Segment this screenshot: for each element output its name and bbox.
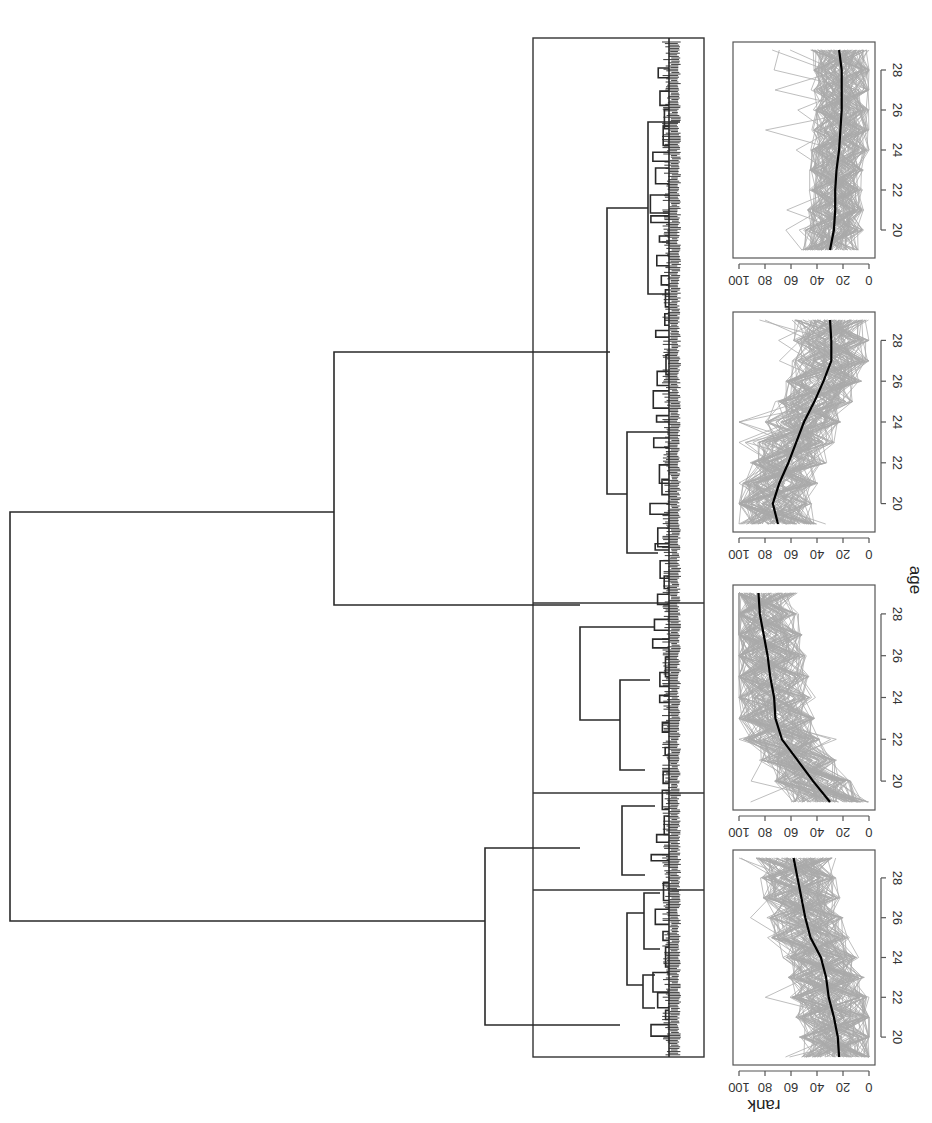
age-tick-label: 22 <box>890 990 905 1004</box>
rank-tick-label: 60 <box>784 273 798 288</box>
panel-cluster-3: 0204060801002022242628 <box>728 312 905 562</box>
dendrogram-branch <box>622 806 655 875</box>
age-tick-label: 24 <box>890 143 905 157</box>
panel-cluster-4: 0204060801002022242628 <box>728 42 905 288</box>
dendrogram-branch <box>334 352 610 605</box>
rank-tick-label: 20 <box>836 825 850 840</box>
rank-tick-label: 40 <box>810 547 824 562</box>
x-axis-title-age: age <box>906 566 925 594</box>
dendrogram-branch <box>627 913 644 985</box>
age-tick-label: 22 <box>890 183 905 197</box>
rank-tick-label: 100 <box>728 1080 750 1095</box>
y-axis-title-rank: rank <box>747 1096 781 1115</box>
rank-tick-label: 40 <box>810 825 824 840</box>
dendrogram-branch <box>620 680 650 770</box>
age-tick-label: 28 <box>890 63 905 77</box>
panel-cluster-1: 0204060801002022242628 <box>728 850 905 1095</box>
rank-tick-label: 100 <box>728 273 750 288</box>
age-tick-label: 22 <box>890 732 905 746</box>
age-tick-label: 20 <box>890 774 905 788</box>
rank-tick-label: 40 <box>810 1080 824 1095</box>
age-tick-label: 26 <box>890 374 905 388</box>
rank-tick-label: 80 <box>758 547 772 562</box>
rank-tick-label: 80 <box>758 1080 772 1095</box>
figure-canvas: 0204060801002022242628020406080100202224… <box>0 0 932 1123</box>
rank-tick-label: 0 <box>865 1080 872 1095</box>
age-tick-label: 28 <box>890 333 905 347</box>
age-tick-label: 26 <box>890 648 905 662</box>
panel-cluster-2: 0204060801002022242628 <box>728 585 905 840</box>
cluster-trajectory-panels: 0204060801002022242628020406080100202224… <box>728 42 905 1095</box>
age-tick-label: 26 <box>890 103 905 117</box>
rank-tick-label: 20 <box>836 1080 850 1095</box>
rank-tick-label: 20 <box>836 273 850 288</box>
rank-tick-label: 0 <box>865 825 872 840</box>
age-tick-label: 24 <box>890 690 905 704</box>
age-tick-label: 24 <box>890 415 905 429</box>
dendrogram-branch <box>485 848 620 1025</box>
age-tick-label: 24 <box>890 950 905 964</box>
age-tick-label: 20 <box>890 496 905 510</box>
rank-tick-label: 80 <box>758 825 772 840</box>
age-tick-label: 28 <box>890 871 905 885</box>
dendrogram-branch <box>10 512 485 921</box>
dendrogram-branch <box>644 893 660 949</box>
age-tick-label: 20 <box>890 223 905 237</box>
rank-tick-label: 60 <box>784 825 798 840</box>
rank-tick-label: 60 <box>784 547 798 562</box>
rank-tick-label: 0 <box>865 273 872 288</box>
dendrogram <box>10 38 704 1057</box>
rank-tick-label: 0 <box>865 547 872 562</box>
rank-tick-label: 100 <box>728 825 750 840</box>
rank-tick-label: 100 <box>728 547 750 562</box>
rank-tick-label: 80 <box>758 273 772 288</box>
age-tick-label: 22 <box>890 456 905 470</box>
dendrogram-branch <box>580 627 655 720</box>
rank-tick-label: 20 <box>836 547 850 562</box>
rank-tick-label: 40 <box>810 273 824 288</box>
age-tick-label: 28 <box>890 607 905 621</box>
rank-tick-label: 60 <box>784 1080 798 1095</box>
age-tick-label: 26 <box>890 910 905 924</box>
age-tick-label: 20 <box>890 1030 905 1044</box>
